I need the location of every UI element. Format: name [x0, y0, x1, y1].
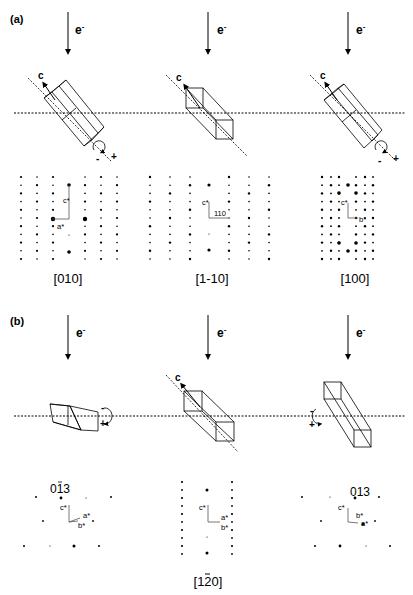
diffraction-spot [84, 250, 86, 252]
diffraction-spot [52, 242, 54, 244]
diffraction-spot [36, 201, 38, 203]
diffraction-spot [337, 191, 341, 195]
diffraction-spot [36, 225, 38, 227]
diffraction-spot [228, 193, 230, 195]
diffraction-spot [364, 176, 366, 178]
diffraction-spot [84, 242, 86, 244]
diffraction-figure: (a) e- c - + c* a* [010] e- c [0, 0, 413, 595]
diffraction-spot [330, 209, 332, 211]
diffraction-spot [364, 201, 366, 203]
diffraction-spot [339, 545, 342, 548]
diffraction-spot [49, 545, 50, 546]
diffraction-spot [228, 225, 230, 227]
diffraction-spot [268, 209, 270, 211]
diffraction-spot [100, 217, 102, 219]
diffraction-spot [181, 497, 183, 499]
diffraction-spot [330, 250, 332, 252]
diffraction-spot [248, 225, 250, 227]
c-axis-label: c [175, 372, 181, 383]
c-star-label: c* [202, 198, 209, 207]
diffraction-spot [116, 250, 118, 252]
diffraction-spot [35, 496, 37, 498]
diffraction-spot [52, 258, 54, 260]
diffraction-spot [364, 241, 366, 243]
c-star-label: c* [199, 503, 206, 512]
diffraction-spot [181, 489, 183, 491]
diffraction-spot [330, 200, 332, 202]
diffraction-spot [338, 250, 340, 252]
diffraction-spot [372, 250, 374, 252]
diffraction-spot [228, 217, 230, 219]
diffraction-spot [100, 258, 102, 260]
diffraction-spot [268, 258, 270, 260]
diffraction-spot [364, 225, 366, 227]
diffraction-spot [321, 241, 323, 243]
zone-axis-label: [100] [341, 271, 370, 286]
diffraction-spot [181, 505, 183, 507]
diffraction-spot [116, 193, 118, 195]
diffraction-spot [355, 184, 357, 186]
diffraction-pattern-013 [301, 496, 391, 547]
diffraction-spot [330, 225, 332, 227]
diffraction-spot [228, 250, 230, 252]
diffraction-spot [231, 529, 233, 531]
diffraction-spot [100, 209, 102, 211]
diffraction-spot [36, 217, 38, 219]
diffraction-spot [338, 201, 340, 203]
diffraction-spot [321, 209, 323, 211]
diffraction-spot [169, 250, 171, 252]
diffraction-spot [301, 496, 303, 498]
diffraction-spot [20, 242, 22, 244]
diffraction-spot [372, 176, 374, 178]
crystal-c-axis-dashed [166, 375, 238, 452]
diffraction-spot [372, 217, 374, 219]
diffraction-spot [330, 258, 332, 260]
diffraction-spot [100, 234, 102, 236]
diffraction-spot [149, 193, 151, 195]
diffraction-spot [338, 209, 340, 211]
diffraction-spot [372, 258, 374, 260]
diffraction-spot [248, 250, 250, 252]
diffraction-spot [355, 176, 357, 178]
diffraction-spot [231, 545, 233, 547]
diffraction-spot [355, 209, 357, 211]
diffraction-spot [372, 233, 374, 235]
electron-beam-label: e- [356, 325, 366, 340]
diffraction-spot [36, 233, 38, 235]
diffraction-spot [36, 176, 38, 178]
diffraction-spot [189, 258, 191, 260]
diffraction-spot [84, 233, 86, 235]
diffraction-spot [149, 225, 151, 227]
rotation-plus: + [100, 418, 106, 429]
diffraction-spot [189, 233, 191, 235]
diffraction-spot [116, 242, 118, 244]
c-axis-label: c [38, 70, 44, 81]
diffraction-spot [189, 225, 191, 227]
c-axis-label: c [176, 72, 182, 83]
diffraction-spot [20, 234, 22, 236]
diffraction-spot [100, 201, 102, 203]
diffraction-spot [338, 184, 340, 186]
diffraction-spot [67, 250, 71, 254]
diffraction-spot [231, 505, 233, 507]
diffraction-spot [268, 176, 270, 178]
diffraction-spot [364, 258, 366, 260]
diffraction-spot [207, 183, 210, 186]
electron-beam-label: e- [75, 22, 85, 37]
rotation-plus: + [111, 151, 117, 162]
zone-axis-label: [010] [54, 271, 83, 286]
diffraction-spot [68, 234, 69, 235]
diffraction-spot [116, 209, 118, 211]
diffraction-spot [228, 234, 230, 236]
rotation-arrow-icon [93, 141, 105, 152]
diffraction-spot [372, 184, 374, 186]
110-label: 110 [214, 209, 226, 218]
diffraction-spot [169, 176, 171, 178]
diffraction-pattern-100 [321, 176, 374, 260]
diffraction-spot [20, 225, 22, 227]
diffraction-spot [52, 209, 54, 211]
column-a-1-10: e- c c* 110 [1-10] [149, 12, 270, 286]
diffraction-spot [189, 250, 191, 252]
diffraction-spot [100, 184, 102, 186]
diffraction-spot [189, 176, 191, 178]
